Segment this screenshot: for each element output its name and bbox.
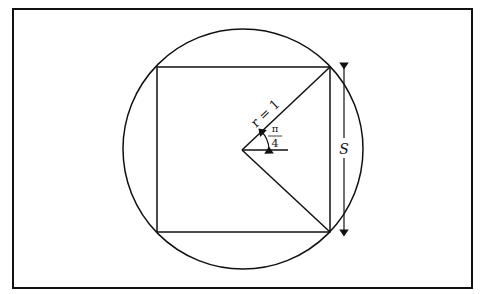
angle-arc	[261, 131, 269, 150]
radius-line-upper	[242, 67, 330, 150]
inscribed-square-diagram: r = 1 π 4 S	[0, 0, 481, 294]
side-label: S	[339, 141, 349, 157]
angle-label-denominator: 4	[272, 137, 279, 150]
radius-line-lower	[242, 150, 330, 232]
angle-label-numerator: π	[272, 123, 279, 134]
